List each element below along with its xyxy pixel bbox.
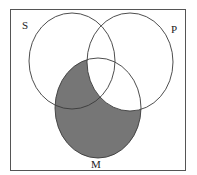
set-p-label: P (171, 23, 177, 35)
set-m-label: M (91, 158, 101, 170)
set-s-label: S (22, 19, 28, 31)
venn-diagram: S P M (0, 0, 197, 175)
